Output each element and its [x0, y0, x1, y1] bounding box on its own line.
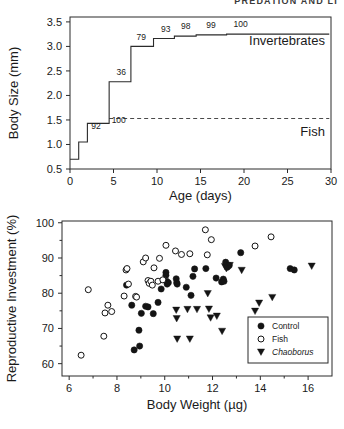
- data-point: [125, 281, 131, 287]
- data-point: [269, 294, 276, 300]
- x-tick-label: 12: [206, 382, 218, 394]
- data-point: [155, 299, 161, 305]
- data-point: [134, 294, 140, 300]
- data-point: [184, 306, 191, 312]
- data-point: [188, 292, 194, 298]
- data-point: [213, 313, 220, 319]
- data-point: [174, 336, 181, 342]
- data-point: [156, 255, 162, 261]
- step-annotation: 93: [161, 24, 171, 34]
- data-point: [256, 300, 263, 306]
- data-point: [145, 304, 151, 310]
- x-tick-label: 5: [110, 175, 116, 187]
- data-point: [204, 291, 211, 297]
- data-point: [187, 251, 193, 257]
- legend-marker: [258, 336, 264, 342]
- y-tick-label: 2.0: [47, 89, 62, 101]
- y-tick-label: 0.5: [47, 163, 62, 175]
- step-annotation: 100: [112, 115, 126, 125]
- data-point: [308, 263, 315, 269]
- x-axis-title: Age (days): [169, 188, 232, 203]
- data-point: [204, 252, 210, 258]
- legend: ControlFishChaoborus: [248, 317, 328, 363]
- y-tick-label: 1.5: [47, 114, 62, 126]
- group-label: Fish: [300, 124, 325, 139]
- y-axis-title: Reproductive Investment (%): [4, 215, 19, 383]
- data-point: [105, 302, 111, 308]
- data-point: [124, 266, 130, 272]
- y-tick-label: 60: [42, 358, 54, 370]
- x-tick-label: 8: [114, 382, 120, 394]
- x-tick-label: 16: [302, 382, 314, 394]
- step-annotation: 98: [181, 21, 191, 31]
- data-point: [238, 267, 245, 273]
- data-point: [143, 255, 149, 261]
- data-point: [172, 248, 178, 254]
- x-axis-title: Body Weight (µg): [147, 397, 247, 412]
- data-point: [190, 273, 196, 279]
- x-tick-label: 6: [66, 382, 72, 394]
- data-point: [173, 316, 180, 322]
- step-annotation: 100: [233, 19, 247, 29]
- x-tick-label: 15: [194, 175, 206, 187]
- step-annotation: 92: [91, 121, 101, 131]
- x-tick-label: 10: [159, 382, 171, 394]
- data-point: [252, 243, 258, 249]
- data-point: [158, 286, 164, 292]
- x-tick-label: 25: [281, 175, 293, 187]
- data-point: [202, 227, 208, 233]
- data-point: [208, 237, 214, 243]
- legend-label: Fish: [272, 334, 288, 344]
- data-point: [151, 265, 157, 271]
- data-point: [213, 275, 219, 281]
- step-annotation: 79: [137, 32, 147, 42]
- data-point: [218, 328, 225, 334]
- data-point: [101, 333, 107, 339]
- y-tick-label: 100: [36, 217, 54, 229]
- data-point: [178, 251, 184, 257]
- x-tick-label: 30: [325, 175, 337, 187]
- data-point: [203, 265, 209, 271]
- y-tick-label: 70: [42, 322, 54, 334]
- data-point: [207, 315, 214, 321]
- x-tick-label: 10: [151, 175, 163, 187]
- y-tick-label: 3.5: [47, 16, 62, 28]
- data-point: [268, 234, 274, 240]
- data-point: [186, 336, 193, 342]
- data-point: [205, 306, 212, 312]
- data-point: [221, 278, 227, 284]
- data-point: [137, 343, 143, 349]
- data-point: [150, 311, 156, 317]
- legend-label: Chaoborus: [272, 347, 314, 357]
- figure-container: PREDATION AND LI 0.51.01.52.02.53.03.505…: [0, 0, 344, 429]
- legend-marker: [258, 323, 264, 329]
- y-tick-label: 3.0: [47, 40, 62, 52]
- y-tick-label: 80: [42, 287, 54, 299]
- y-tick-label: 1.0: [47, 138, 62, 150]
- data-point: [102, 310, 108, 316]
- x-tick-label: 20: [238, 175, 250, 187]
- data-point: [138, 310, 144, 316]
- data-point: [85, 287, 91, 293]
- data-point: [129, 302, 135, 308]
- data-point: [192, 266, 198, 272]
- y-tick-label: 90: [42, 252, 54, 264]
- y-tick-label: 2.5: [47, 65, 62, 77]
- data-point: [163, 242, 169, 248]
- legend-label: Control: [272, 321, 300, 331]
- data-point: [109, 309, 115, 315]
- step-annotation: 36: [117, 67, 127, 77]
- body-size-step-line: [70, 34, 329, 159]
- data-point: [131, 347, 137, 353]
- data-point: [183, 284, 189, 290]
- group-label: Invertebrates: [249, 33, 325, 48]
- data-point: [174, 281, 180, 287]
- data-point: [251, 308, 258, 314]
- data-point: [136, 327, 142, 333]
- data-point: [173, 307, 180, 313]
- x-tick-label: 14: [254, 382, 266, 394]
- reproductive-investment-scatter: 607080901006810121416ControlFishChaoboru…: [0, 205, 344, 429]
- x-tick-label: 0: [67, 175, 73, 187]
- data-point: [121, 293, 127, 299]
- data-point: [78, 352, 84, 358]
